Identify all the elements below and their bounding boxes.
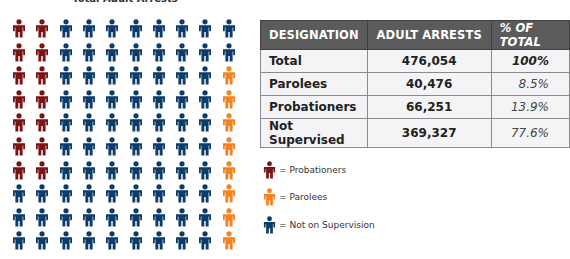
person-icon-not-supervised <box>104 184 120 203</box>
person-icon-not-supervised <box>104 66 120 85</box>
person-icon-not-supervised <box>58 43 74 62</box>
person-icon-not-supervised <box>81 231 97 250</box>
person-icon-not-supervised <box>104 137 120 156</box>
person-icon-parolees <box>221 137 237 156</box>
person-icon-parolees <box>221 231 237 250</box>
person-icon-not-supervised <box>174 113 190 132</box>
person-icon-not-supervised <box>128 113 144 132</box>
arrests-table: DESIGNATION ADULT ARRESTS % OF TOTAL Tot… <box>260 20 570 148</box>
cell-arrests: 476,054 <box>367 50 491 73</box>
person-icon-not-supervised <box>174 161 190 180</box>
person-icon-not-supervised <box>197 19 213 38</box>
person-icon-not-supervised <box>197 137 213 156</box>
person-icon <box>262 188 277 206</box>
person-icon-not-supervised <box>81 90 97 109</box>
person-icon-not-supervised <box>104 161 120 180</box>
person-icon <box>262 216 277 234</box>
cell-percent: 77.6% <box>491 119 569 148</box>
person-icon-not-supervised <box>58 137 74 156</box>
person-icon-probationers <box>11 19 27 38</box>
person-icon-not-supervised <box>128 43 144 62</box>
person-icon-not-supervised <box>151 66 167 85</box>
person-icon-not-supervised <box>197 113 213 132</box>
person-icon-not-supervised <box>151 161 167 180</box>
person-icon-not-supervised <box>81 19 97 38</box>
person-icon-not-supervised <box>197 43 213 62</box>
person-icon-not-supervised <box>174 184 190 203</box>
person-icon-not-supervised <box>151 184 167 203</box>
person-icon-parolees <box>221 66 237 85</box>
cell-arrests: 40,476 <box>367 73 491 96</box>
person-icon <box>262 161 277 179</box>
person-icon-not-supervised <box>104 113 120 132</box>
person-icon-not-supervised <box>151 19 167 38</box>
person-icon-not-supervised <box>151 231 167 250</box>
cell-percent: 8.5% <box>491 73 569 96</box>
person-icon-probationers <box>11 43 27 62</box>
person-icon-not-supervised <box>58 113 74 132</box>
cell-designation: Parolees <box>261 73 368 96</box>
person-icon-not-supervised <box>81 113 97 132</box>
person-icon-probationers <box>11 90 27 109</box>
header-designation: DESIGNATION <box>261 21 368 50</box>
person-icon-probationers <box>34 19 50 38</box>
person-icon-not-supervised <box>128 231 144 250</box>
person-icon-not-supervised <box>81 161 97 180</box>
person-icon-not-supervised <box>197 231 213 250</box>
person-icon-not-supervised <box>58 208 74 227</box>
person-icon-not-supervised <box>174 208 190 227</box>
cell-arrests: 369,327 <box>367 119 491 148</box>
person-icon-parolees <box>221 161 237 180</box>
table-row: Not Supervised 369,327 77.6% <box>261 119 570 148</box>
person-icon-probationers <box>11 113 27 132</box>
legend-label: = Parolees <box>279 192 327 202</box>
cell-percent: 100% <box>491 50 569 73</box>
person-icon-not-supervised <box>11 208 27 227</box>
person-icon-not-supervised <box>174 137 190 156</box>
person-icon-not-supervised <box>174 90 190 109</box>
person-icon-not-supervised <box>197 161 213 180</box>
header-percent-of-total: % OF TOTAL <box>491 21 569 50</box>
cell-designation: Total <box>261 50 368 73</box>
person-icon-not-supervised <box>104 208 120 227</box>
person-icon-not-supervised <box>34 231 50 250</box>
person-icon-parolees <box>221 184 237 203</box>
person-icon-not-supervised <box>197 90 213 109</box>
person-icon-not-supervised <box>197 184 213 203</box>
legend-label: = Probationers <box>279 165 346 175</box>
cell-designation: Probationers <box>261 96 368 119</box>
cell-percent: 13.9% <box>491 96 569 119</box>
person-icon-not-supervised <box>81 66 97 85</box>
person-icon-probationers <box>34 43 50 62</box>
person-icon-not-supervised <box>151 43 167 62</box>
person-icon-not-supervised <box>221 43 237 62</box>
person-icon-not-supervised <box>58 66 74 85</box>
table-row: Probationers 66,251 13.9% <box>261 96 570 119</box>
person-icon-not-supervised <box>11 231 27 250</box>
person-icon-not-supervised <box>81 137 97 156</box>
person-icon-probationers <box>11 66 27 85</box>
legend-item-not-on-supervision: = Not on Supervision <box>262 215 462 234</box>
person-icon-parolees <box>221 208 237 227</box>
person-icon-probationers <box>11 137 27 156</box>
person-icon-not-supervised <box>128 19 144 38</box>
person-icon-not-supervised <box>197 208 213 227</box>
pictogram-grid <box>11 19 246 255</box>
person-icon-probationers <box>34 137 50 156</box>
person-icon-not-supervised <box>151 208 167 227</box>
cell-arrests: 66,251 <box>367 96 491 119</box>
person-icon-not-supervised <box>34 208 50 227</box>
person-icon-not-supervised <box>128 208 144 227</box>
legend-label: = Not on Supervision <box>279 220 375 230</box>
person-icon-not-supervised <box>128 66 144 85</box>
person-icon-not-supervised <box>58 90 74 109</box>
person-icon-not-supervised <box>58 161 74 180</box>
person-icon-not-supervised <box>197 66 213 85</box>
table-row: Parolees 40,476 8.5% <box>261 73 570 96</box>
person-icon-not-supervised <box>104 43 120 62</box>
person-icon-not-supervised <box>58 184 74 203</box>
person-icon-parolees <box>221 113 237 132</box>
cell-designation: Not Supervised <box>261 119 368 148</box>
person-icon-not-supervised <box>104 90 120 109</box>
person-icon-not-supervised <box>81 43 97 62</box>
